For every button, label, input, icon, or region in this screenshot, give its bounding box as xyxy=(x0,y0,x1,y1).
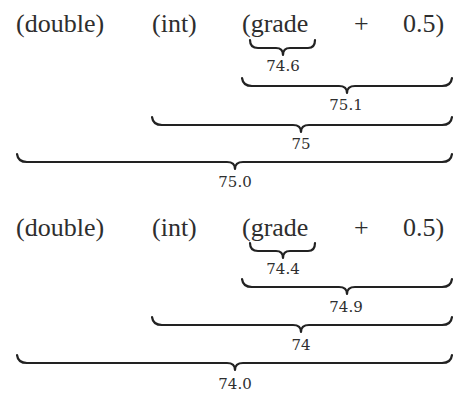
underbrace-double-cast xyxy=(0,201,462,398)
value-double-cast: 74.0 xyxy=(218,377,251,392)
value-double-cast: 75.0 xyxy=(218,175,251,190)
underbrace-double-cast xyxy=(0,0,462,200)
